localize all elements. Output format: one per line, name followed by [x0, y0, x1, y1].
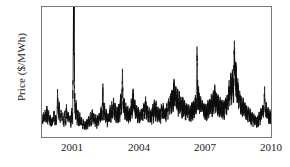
electricity-price-chart-figure: Price ($/MWh) 200 100 0 2001 2004 2007 2… — [0, 0, 290, 167]
x-tick-label-2004: 2004 — [109, 142, 169, 153]
x-tick-label-2007: 2007 — [175, 142, 235, 153]
x-tick-label-2010: 2010 — [241, 142, 290, 153]
x-tick-label-2001: 2001 — [42, 142, 102, 153]
y-axis-label: Price ($/MWh) — [15, 5, 27, 129]
price-series-line — [42, 7, 272, 138]
plot-area — [41, 6, 272, 138]
